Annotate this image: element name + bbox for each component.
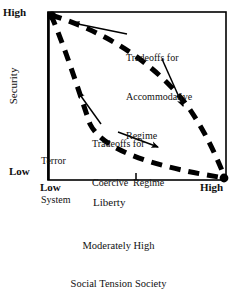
figure-caption-line2: Social Tension Society: [0, 278, 237, 291]
annotation-accommodative-line2: Accommodative: [126, 90, 192, 103]
annotation-coercive-line1: Tradeoffs for: [92, 137, 164, 150]
y-axis-high-label: High: [3, 7, 26, 19]
annotation-terror-line1: Terror: [41, 154, 70, 167]
annotation-terror-line2: System: [41, 193, 70, 206]
figure-caption: Moderately High Social Tension Society: [0, 214, 237, 293]
y-axis-title: Security: [8, 56, 20, 116]
annotation-accommodative-line1: Tradeoffs for: [126, 51, 192, 64]
x-axis-high-label: High: [200, 182, 223, 194]
curve-origin-node: [48, 12, 57, 21]
y-axis-low-label: Low: [9, 166, 30, 178]
figure-caption-line1: Moderately High: [0, 240, 237, 253]
annotation-coercive-regime: Tradeoffs for Coercive Regime: [92, 111, 164, 215]
annotation-coercive-line2: Coercive Regime: [92, 176, 164, 189]
accommodative-arrow-upper: [73, 23, 127, 34]
